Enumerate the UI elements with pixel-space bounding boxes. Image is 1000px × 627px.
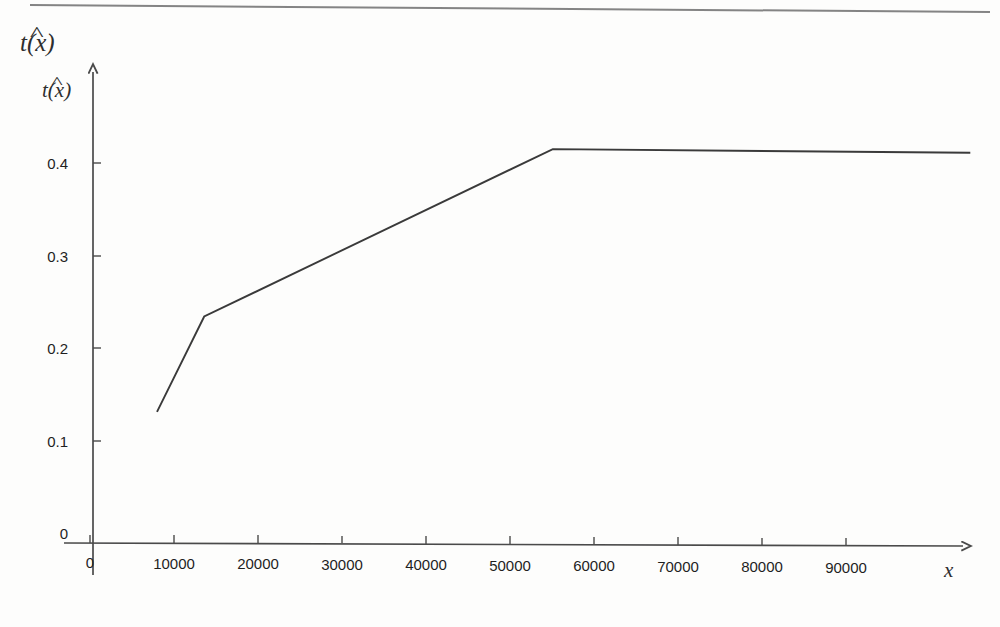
x-tick-label-0: 0 [55, 555, 125, 570]
x-tick-label-30000: 30000 [307, 557, 377, 572]
y-axis-ticks [93, 163, 101, 441]
x-tick-label-10000: 10000 [139, 556, 209, 571]
x-tick-label-50000: 50000 [475, 558, 545, 573]
x-tick-label-70000: 70000 [643, 559, 713, 574]
x-axis-line [64, 543, 963, 546]
y-tick-label-0.4: 0.4 [20, 156, 68, 171]
x-tick-label-80000: 80000 [727, 559, 797, 574]
y-tick-label-0.3: 0.3 [20, 249, 68, 264]
plot-canvas [0, 0, 1000, 627]
x-tick-label-20000: 20000 [223, 556, 293, 571]
y-tick-label-0.1: 0.1 [20, 434, 68, 449]
x-tick-label-60000: 60000 [559, 558, 629, 573]
x-tick-label-90000: 90000 [811, 560, 881, 575]
y-tick-label-0.2: 0.2 [20, 341, 68, 356]
y-tick-label-0: 0 [20, 526, 68, 541]
data-series-line [157, 149, 970, 412]
chart-figure: ^t(x) ^t(x) x [0, 0, 1000, 627]
x-tick-label-40000: 40000 [391, 557, 461, 572]
